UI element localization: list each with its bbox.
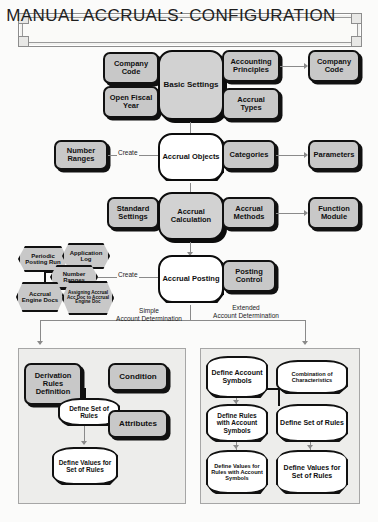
node-define-account-symbols[interactable]: Define Account Symbols (206, 356, 268, 398)
node-open-fiscal-year[interactable]: Open Fiscal Year (103, 86, 159, 118)
arrow-icon (233, 445, 239, 449)
connector-line (278, 388, 280, 406)
node-define-values-for-set-of-rules-simple[interactable]: Define Values for Set of Rules (52, 447, 118, 485)
branch-label-simple: Simple Account Determination (110, 307, 188, 323)
branch-label-extended-line1: Extended (197, 304, 295, 312)
node-assigning-accrual-doc[interactable]: Assigning Accrual Acc Doc to Accrual Eng… (62, 281, 114, 315)
arrow-icon (233, 400, 239, 404)
node-define-values-for-set-of-rules-extended[interactable]: Define Values for Set of Rules (276, 450, 348, 494)
banner-corner-notch (351, 36, 362, 47)
branch-label-simple-line1: Simple (110, 307, 188, 315)
branch-label-extended-line2: Account Determination (197, 312, 295, 320)
connector-line (190, 305, 191, 321)
node-attributes[interactable]: Attributes (108, 410, 168, 438)
node-posting-control[interactable]: Posting Control (222, 260, 276, 292)
edge-label-create: Create (117, 149, 139, 156)
node-accrual-types[interactable]: Accrual Types (222, 88, 280, 120)
node-define-rules-with-account-symbols[interactable]: Define Rules with Account Symbols (206, 404, 268, 442)
connector-line (266, 377, 268, 389)
node-define-values-for-rules-with-account-symbols[interactable]: Define Values for Rules with Account Sym… (206, 450, 268, 494)
diagram-canvas: MANUAL ACCRUALS: CONFIGURATION Company C… (0, 0, 378, 522)
node-standard-settings[interactable]: Standard Settings (107, 197, 159, 229)
node-condition[interactable]: Condition (108, 363, 168, 391)
arrow-icon (307, 445, 313, 449)
node-parameters[interactable]: Parameters (308, 140, 360, 170)
node-basic-settings[interactable]: Basic Settings (158, 50, 224, 120)
node-accrual-objects[interactable]: Accrual Objects (158, 133, 224, 181)
arrow-icon (37, 341, 43, 345)
node-function-module[interactable]: Function Module (308, 197, 360, 229)
node-combination-of-characteristics[interactable]: Combination of Characteristics (276, 360, 348, 394)
connector-line (276, 155, 305, 156)
branch-label-simple-line2: Account Determination (110, 315, 188, 323)
page-title: MANUAL ACCRUALS: CONFIGURATION (0, 0, 342, 32)
edge-label-create-posting: Create (117, 271, 139, 278)
node-company-code-right[interactable]: Company Code (308, 50, 360, 82)
connector-line (266, 388, 278, 390)
node-accrual-posting[interactable]: Accrual Posting (158, 255, 224, 303)
banner-corner-notch (18, 36, 29, 47)
branch-label-extended: Extended Account Determination (197, 304, 295, 320)
banner-corner-notch (351, 13, 362, 24)
node-accrual-methods[interactable]: Accrual Methods (222, 197, 276, 229)
arrow-icon (81, 441, 87, 445)
node-number-ranges-objects[interactable]: Number Ranges (54, 140, 108, 170)
node-company-code-top[interactable]: Company Code (103, 52, 159, 84)
node-categories[interactable]: Categories (222, 140, 276, 170)
connector-line (276, 213, 305, 214)
node-define-set-of-rules-extended[interactable]: Define Set of Rules (276, 404, 348, 442)
connector-line (280, 66, 306, 67)
node-accrual-engine-docs[interactable]: Accrual Engine Docs (16, 282, 64, 312)
node-accrual-calculation[interactable]: Accrual Calculation (158, 192, 224, 240)
node-accounting-principles[interactable]: Accounting Principles (222, 50, 280, 82)
arrow-icon (302, 341, 308, 345)
